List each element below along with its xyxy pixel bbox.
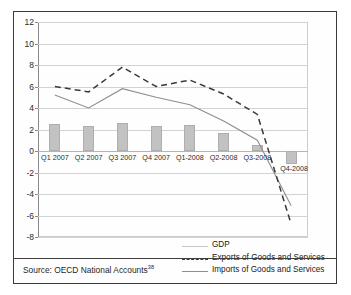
legend-label: GDP — [212, 240, 230, 249]
legend-swatch-light-gray-line — [182, 246, 208, 247]
source-divider: Source: OECD National Accounts38 — [14, 258, 336, 283]
y-tick-label: -4 — [26, 189, 34, 199]
legend-item: GDP — [182, 240, 332, 253]
y-tick-label: -2 — [26, 168, 34, 178]
y-tick-label: 4 — [29, 103, 34, 113]
source-note: Source: OECD National Accounts38 — [23, 264, 154, 275]
y-tick-mark — [35, 237, 38, 238]
y-tick-label: -6 — [26, 211, 34, 221]
imports-line — [55, 89, 291, 206]
x-tick-label: Q4 2007 — [142, 153, 170, 162]
y-tick-label: 0 — [29, 146, 34, 156]
x-tick-label: Q2-2008 — [210, 153, 238, 162]
x-tick-label: Q1 2007 — [41, 153, 69, 162]
x-tick-label: Q3-2008 — [243, 153, 271, 162]
y-tick-label: 12 — [25, 17, 34, 27]
x-tick-label: Q2 2007 — [75, 153, 103, 162]
x-tick-label: Q4-2008 — [280, 164, 308, 173]
gridline--8 — [38, 237, 308, 238]
y-tick-label: 10 — [25, 39, 34, 49]
x-tick-label: Q3 2007 — [109, 153, 137, 162]
chart-figure: 121086420-2-4-6-8 Q1 2007Q2 2007Q3 2007Q… — [13, 11, 337, 284]
y-tick-label: -8 — [26, 232, 34, 242]
y-tick-label: 6 — [29, 82, 34, 92]
y-tick-label: 2 — [29, 125, 34, 135]
x-tick-label: Q1-2008 — [176, 153, 204, 162]
y-tick-label: 8 — [29, 60, 34, 70]
line-series-overlay — [38, 22, 308, 237]
plot-area: 121086420-2-4-6-8 Q1 2007Q2 2007Q3 2007Q… — [38, 22, 308, 237]
exports-line — [55, 67, 291, 224]
source-text: Source: OECD National Accounts — [23, 265, 148, 275]
source-footnote-marker: 38 — [148, 264, 154, 270]
